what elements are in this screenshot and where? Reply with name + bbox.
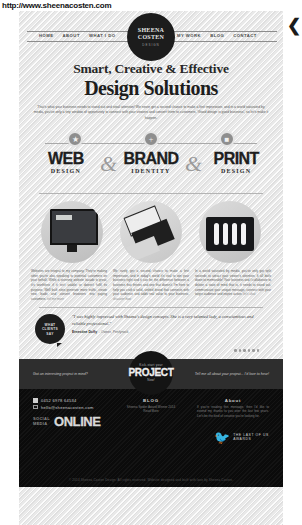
what-clients-say-badge: WHAT CLIENTS SAY: [35, 314, 65, 344]
utensil-shape-3: [232, 223, 237, 245]
pagination-dot: [248, 349, 251, 352]
footer-email-line[interactable]: hello@sheenacosten.com: [33, 405, 105, 410]
cta-badge-bottom: Now!: [147, 378, 154, 382]
page-viewport: HOME ABOUT WHAT I DO MY WORK BLOG CONTAC…: [0, 11, 302, 525]
nav-rule-right-bottom: [167, 41, 277, 42]
service-web-subtitle: DESIGN: [35, 168, 97, 174]
primary-nav-right: MY WORK BLOG CONTACT: [177, 33, 257, 38]
badge-line-3: SAY: [46, 332, 53, 336]
hero-kicker: Smart, Creative & Effective: [31, 61, 271, 76]
footer-blog-column: BLOG Sheena Spider Award Winner 2014 Rea…: [115, 398, 187, 429]
business-cards-image[interactable]: [120, 201, 182, 263]
nav-item-my-work[interactable]: MY WORK: [177, 33, 201, 38]
nav-item-home[interactable]: HOME: [39, 33, 54, 38]
cta-right-text: Tell me all about your project... I'd lo…: [177, 372, 269, 376]
ampersand-2: &: [185, 153, 202, 175]
testimonial-author: Ernestine Duffy: [72, 330, 97, 334]
testimonial-role: Owner, Penfynock: [101, 330, 129, 334]
testimonial-body: "I was highly impressed with Sheena's de…: [72, 314, 267, 334]
footer-blog-heading: BLOG: [115, 398, 187, 403]
portfolio-brand-text: We rarely get a second chance to make a …: [113, 269, 189, 296]
services-badge-row: ★ + ■: [19, 131, 283, 147]
nav-item-about[interactable]: ABOUT: [63, 33, 80, 38]
start-project-badge[interactable]: Kick-start your PROJECT Now!: [129, 351, 173, 395]
footer-contact-column: 0452 6978 64534 hello@sheenacosten.com S…: [33, 398, 105, 429]
footer-phone: 0452 6978 64534: [41, 398, 77, 403]
monitor-shape: [50, 209, 98, 245]
service-brand[interactable]: BRAND IDENTITY: [120, 151, 182, 174]
nav-item-what-i-do[interactable]: WHAT I DO: [89, 33, 116, 38]
testimonial-section: WHAT CLIENTS SAY "I was highly impressed…: [19, 308, 283, 344]
page-background: HOME ABOUT WHAT I DO MY WORK BLOG CONTAC…: [19, 11, 283, 525]
page-gutter-right: [283, 11, 302, 525]
footer-phone-line[interactable]: 0452 6978 64534: [33, 398, 105, 403]
portfolio-print-link[interactable]: let's chat: [243, 292, 255, 296]
cutlery-packaging-image[interactable]: [199, 201, 261, 263]
portfolio-brand-link[interactable]: discover how: [113, 297, 131, 301]
services-row: WEB DESIGN & BRAND IDENTITY & PRINT DESI…: [19, 151, 283, 175]
footer-about-column: About If you're reading this message, th…: [197, 398, 269, 429]
hero-section: Smart, Creative & Effective Design Solut…: [19, 55, 283, 121]
utensil-shape-2: [223, 223, 228, 245]
nav-item-contact[interactable]: CONTACT: [233, 33, 257, 38]
testimonial-attribution: Ernestine Duffy - Owner, Penfynock: [72, 330, 267, 334]
footer-email: hello@sheenacosten.com: [41, 405, 94, 410]
bird-logo-icon: 🐦: [214, 431, 230, 444]
chevron-left-icon[interactable]: ❮: [287, 17, 301, 34]
cta-left-text: Got an interesting project in mind?: [33, 372, 125, 376]
pagination-dot: [257, 349, 260, 352]
site-footer: 0452 6978 64534 hello@sheenacosten.com S…: [19, 389, 283, 487]
service-brand-title: BRAND: [120, 151, 182, 167]
hero-title: Design Solutions: [31, 77, 271, 99]
footer-copyright: © 2014 Sheena Costen Design. All rights …: [19, 478, 283, 482]
site-logo[interactable]: SHEENA COSTEN DESIGN: [127, 13, 175, 61]
service-print[interactable]: PRINT DESIGN: [205, 151, 267, 174]
service-print-subtitle: DESIGN: [205, 168, 267, 174]
pagination-dot: [239, 349, 242, 352]
utensil-shape-1: [214, 223, 219, 245]
cta-band: Got an interesting project in mind? Kick…: [19, 359, 283, 389]
portfolio-column-brand: We rarely get a second chance to make a …: [113, 269, 189, 301]
award-badge: 🐦 THE LAST OF US AWARDS: [214, 431, 269, 444]
service-print-title: PRINT: [205, 151, 267, 167]
footer-blog-link[interactable]: Read More: [115, 409, 187, 414]
portfolio-column-web: Websites are integral to my company. The…: [31, 269, 107, 301]
utensil-shape-4: [241, 223, 246, 245]
site-header: HOME ABOUT WHAT I DO MY WORK BLOG CONTAC…: [19, 11, 283, 55]
service-web[interactable]: WEB DESIGN: [35, 151, 97, 174]
social-label: SOCIAL MEDIA: [33, 416, 50, 426]
footer-about-heading: About: [197, 398, 269, 403]
hero-lead-paragraph: That's what your business needs to stand…: [32, 105, 270, 121]
ampersand-1: &: [100, 153, 117, 175]
logo-line-2: COSTEN: [138, 34, 164, 41]
page-gutter-left: [0, 11, 19, 525]
footer-columns: 0452 6978 64534 hello@sheenacosten.com S…: [33, 398, 269, 429]
logo-line-1: SHEENA: [138, 27, 164, 34]
packaging-shape: [206, 217, 254, 251]
browser-url-bar[interactable]: http://www.sheenacosten.com: [0, 0, 302, 11]
portfolio-web-text: Websites are integral to my company. The…: [31, 269, 107, 301]
nav-item-blog[interactable]: BLOG: [210, 33, 224, 38]
testimonial-quote: "I was highly impressed with Sheena's de…: [72, 314, 267, 327]
website-mockup-image[interactable]: [41, 201, 103, 263]
service-web-title: WEB: [35, 151, 97, 167]
monitor-stand-shape: [67, 245, 77, 252]
pagination-dot: [252, 349, 255, 352]
web-icon: ★: [67, 131, 83, 147]
portfolio-image-row: [19, 194, 283, 263]
portfolio-column-print: In a world saturated by media, you've on…: [195, 269, 271, 301]
mail-icon: [33, 405, 38, 409]
award-line-2: AWARDS: [233, 437, 269, 442]
nav-rule-left-top: [27, 31, 131, 32]
social-label-2: MEDIA: [33, 421, 50, 426]
pagination-dot: [243, 349, 246, 352]
card-shape-3: [126, 236, 160, 262]
logo-tagline: DESIGN: [142, 43, 160, 47]
pagination-dot: [234, 349, 237, 352]
social-online-text: ONLINE: [54, 414, 101, 429]
portfolio-web-link[interactable]: tell me more: [47, 297, 64, 301]
print-icon: ■: [219, 131, 235, 147]
nav-rule-left-bottom: [27, 41, 131, 42]
portfolio-text-row: Websites are integral to my company. The…: [19, 263, 283, 301]
services-section: ★ + ■ WEB DESIGN & BRAND IDENTITY & PRIN…: [19, 131, 283, 187]
